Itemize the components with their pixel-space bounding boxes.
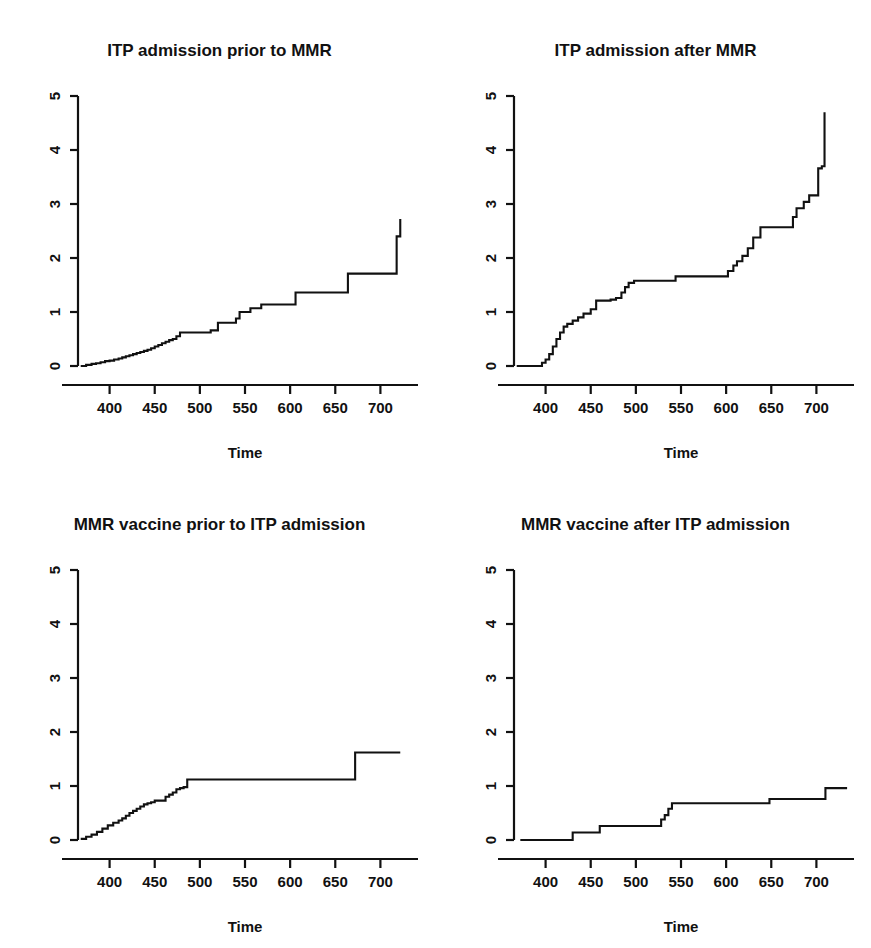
x-tick-label: 600	[714, 873, 739, 890]
x-axis-label: Time	[228, 918, 263, 935]
x-tick-label: 650	[759, 399, 784, 416]
x-tick-label: 550	[668, 873, 693, 890]
panel-mmr-vaccine-after-itp-admission: MMR vaccine after ITP admission012345400…	[436, 474, 871, 948]
x-tick-label: 700	[804, 873, 829, 890]
x-tick-label: 700	[804, 399, 829, 416]
y-tick-label: 4	[46, 619, 63, 628]
y-tick-label: 1	[482, 308, 499, 316]
y-tick-label: 5	[482, 566, 499, 574]
y-tick-label: 0	[46, 836, 63, 844]
y-tick-label: 4	[482, 145, 499, 154]
y-tick-label: 4	[482, 619, 499, 628]
x-tick-label: 450	[578, 399, 603, 416]
x-tick-label: 400	[533, 399, 558, 416]
panel-title: ITP admission after MMR	[555, 41, 757, 60]
x-tick-label: 450	[142, 399, 167, 416]
x-tick-label: 550	[668, 399, 693, 416]
x-axis-label: Time	[664, 444, 699, 461]
x-tick-label: 700	[368, 873, 393, 890]
y-tick-label: 3	[46, 674, 63, 682]
x-tick-label: 400	[533, 873, 558, 890]
y-tick-label: 0	[482, 836, 499, 844]
x-tick-label: 500	[187, 399, 212, 416]
y-tick-label: 0	[46, 362, 63, 370]
x-tick-label: 550	[232, 873, 257, 890]
y-tick-label: 1	[46, 782, 63, 790]
panel-itp-admission-prior-to-mmr: ITP admission prior to MMR01234540045050…	[0, 0, 435, 474]
x-tick-label: 650	[323, 399, 348, 416]
x-axis-label: Time	[664, 918, 699, 935]
y-tick-label: 5	[482, 92, 499, 100]
panel-title: MMR vaccine after ITP admission	[521, 515, 790, 534]
x-tick-label: 650	[323, 873, 348, 890]
x-tick-label: 400	[97, 873, 122, 890]
x-tick-label: 700	[368, 399, 393, 416]
x-tick-label: 600	[714, 399, 739, 416]
y-tick-label: 5	[46, 92, 63, 100]
y-tick-label: 3	[482, 674, 499, 682]
x-tick-label: 450	[142, 873, 167, 890]
figure-canvas: ITP admission prior to MMR01234540045050…	[0, 0, 871, 948]
y-tick-label: 3	[482, 200, 499, 208]
y-tick-label: 2	[482, 728, 499, 736]
step-curve	[517, 112, 825, 366]
panel-mmr-vaccine-prior-to-itp-admission: MMR vaccine prior to ITP admission012345…	[0, 474, 435, 948]
x-tick-label: 450	[578, 873, 603, 890]
x-tick-label: 600	[278, 399, 303, 416]
panel-title: ITP admission prior to MMR	[107, 41, 331, 60]
y-tick-label: 2	[46, 728, 63, 736]
x-tick-label: 600	[278, 873, 303, 890]
panel-itp-admission-after-mmr: ITP admission after MMR01234540045050055…	[436, 0, 871, 474]
y-tick-label: 4	[46, 145, 63, 154]
y-tick-label: 3	[46, 200, 63, 208]
y-tick-label: 2	[482, 254, 499, 262]
step-curve	[81, 753, 401, 839]
y-tick-label: 5	[46, 566, 63, 574]
y-tick-label: 1	[482, 782, 499, 790]
x-tick-label: 550	[232, 399, 257, 416]
x-tick-label: 500	[623, 873, 648, 890]
x-tick-label: 650	[759, 873, 784, 890]
x-tick-label: 400	[97, 399, 122, 416]
y-tick-label: 1	[46, 308, 63, 316]
x-tick-label: 500	[623, 399, 648, 416]
step-curve	[81, 219, 401, 366]
x-tick-label: 500	[187, 873, 212, 890]
y-tick-label: 0	[482, 362, 499, 370]
step-curve	[520, 788, 847, 840]
x-axis-label: Time	[228, 444, 263, 461]
panel-title: MMR vaccine prior to ITP admission	[74, 515, 366, 534]
y-tick-label: 2	[46, 254, 63, 262]
